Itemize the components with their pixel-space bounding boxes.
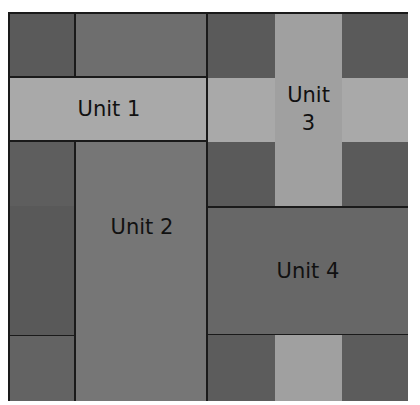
unit-3-label-line2: 3: [275, 110, 342, 136]
unit-3-label-line1: Unit: [275, 82, 342, 108]
unit-2-label: Unit 2: [76, 214, 208, 240]
unit-4-label: Unit 4: [208, 258, 408, 284]
left-column-middle: [10, 206, 74, 335]
unit-1-band: Unit 1: [10, 76, 208, 142]
bottom-right-light-strip: [275, 335, 342, 401]
unit-3-region: Unit 3: [208, 14, 408, 206]
diagram-frame: Unit 1 Unit 2 Unit 3 Unit 4: [8, 12, 408, 401]
top-left-dark-block: [10, 14, 74, 76]
unit-1-label: Unit 1: [10, 96, 208, 122]
unit-4-block: Unit 4: [208, 206, 408, 335]
left-column-upper: [10, 142, 74, 206]
bottom-right-region: [208, 335, 408, 401]
left-column-lower: [10, 335, 74, 401]
top-middle-block: [74, 14, 208, 76]
unit-2-block: Unit 2: [74, 142, 208, 401]
